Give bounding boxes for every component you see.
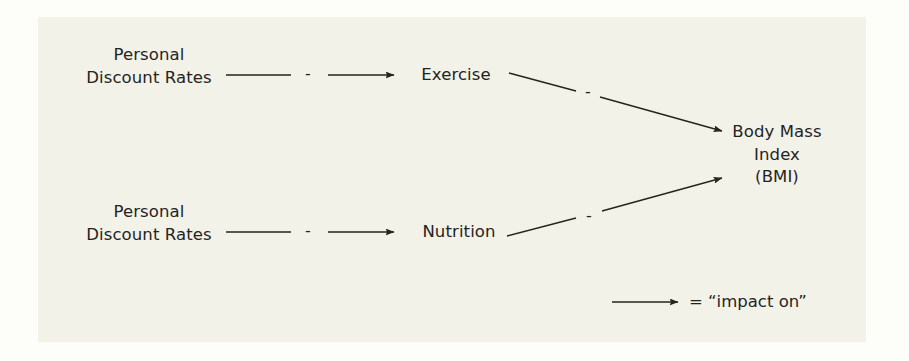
edge-nutrition-to-bmi	[507, 178, 722, 236]
edge-sign-pdr1-exercise: -	[301, 66, 315, 82]
edge-sign-nutrition-bmi: -	[582, 208, 596, 224]
node-body-mass-index: Body Mass Index (BMI)	[725, 121, 829, 189]
node-nutrition: Nutrition	[408, 221, 510, 244]
node-personal-discount-rates-1: Personal Discount Rates	[68, 44, 230, 89]
edge-segment-right	[602, 178, 722, 211]
node-personal-discount-rates-2: Personal Discount Rates	[68, 201, 230, 246]
edge-exercise-to-bmi	[509, 73, 722, 131]
legend-label: = “impact on”	[689, 292, 807, 312]
edge-segment-right	[600, 97, 722, 131]
edge-segment-left	[507, 218, 576, 236]
edge-segment-left	[509, 73, 576, 91]
node-exercise: Exercise	[408, 64, 504, 87]
edge-sign-pdr2-nutrition: -	[301, 223, 315, 239]
edge-sign-exercise-bmi: -	[581, 84, 595, 100]
diagram-page: Personal Discount Rates Personal Discoun…	[0, 0, 909, 361]
